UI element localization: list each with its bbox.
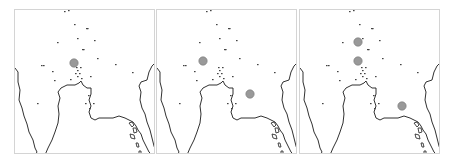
station-point: [216, 24, 218, 25]
station-point: [223, 78, 225, 79]
station-point: [236, 40, 238, 41]
station-point: [194, 71, 196, 72]
station-point: [179, 103, 181, 104]
station-point: [382, 58, 384, 59]
station-point: [372, 28, 374, 29]
station-point: [85, 103, 87, 104]
coastline: [300, 68, 322, 154]
station-point: [206, 11, 208, 12]
station-point: [375, 76, 377, 77]
station-point: [379, 40, 381, 41]
station-point: [230, 95, 232, 96]
highlight-marker: [398, 102, 406, 110]
station-point: [80, 67, 82, 68]
coastline: [281, 62, 297, 152]
island: [418, 128, 422, 133]
station-point: [218, 67, 220, 68]
station-point: [54, 80, 56, 81]
basemap: [157, 10, 297, 154]
island: [130, 134, 135, 139]
station-point: [212, 79, 214, 80]
station-point: [219, 70, 221, 71]
island: [278, 143, 281, 147]
island: [272, 134, 277, 139]
station-point: [97, 58, 99, 59]
station-point: [219, 76, 221, 77]
station-point: [353, 10, 355, 11]
station-point: [366, 78, 368, 79]
highlight-marker: [354, 38, 362, 46]
island: [275, 128, 279, 133]
station-point: [196, 80, 198, 81]
station-point: [360, 73, 362, 74]
basemap: [300, 10, 440, 154]
coastline: [15, 68, 37, 154]
station-point: [232, 76, 234, 77]
station-point: [229, 28, 231, 29]
station-point: [362, 70, 364, 71]
station-point: [88, 95, 90, 96]
island: [136, 143, 139, 147]
station-point: [235, 103, 237, 104]
station-point: [89, 108, 91, 109]
station-point: [43, 65, 45, 66]
coastline: [424, 62, 440, 152]
station-point: [75, 73, 77, 74]
station-point: [368, 49, 370, 50]
basemap: [15, 10, 155, 154]
station-point: [342, 42, 344, 43]
highlight-marker: [70, 59, 78, 67]
coastline: [139, 62, 155, 152]
station-point: [70, 79, 72, 80]
station-point: [87, 28, 89, 29]
station-point: [362, 38, 364, 39]
station-point: [378, 103, 380, 104]
station-point: [217, 73, 219, 74]
station-point: [76, 67, 78, 68]
station-point: [183, 65, 185, 66]
island: [281, 151, 283, 154]
station-point: [274, 72, 276, 73]
station-point: [77, 70, 79, 71]
station-point: [115, 64, 117, 65]
station-point: [326, 65, 328, 66]
station-point: [373, 95, 375, 96]
station-point: [93, 103, 95, 104]
highlight-marker: [199, 57, 207, 65]
station-point: [77, 38, 79, 39]
station-point: [37, 103, 39, 104]
station-point: [77, 76, 79, 77]
station-point: [79, 73, 81, 74]
station-point: [370, 103, 372, 104]
island: [133, 128, 137, 133]
station-point: [337, 71, 339, 72]
station-point: [362, 76, 364, 77]
station-point: [90, 76, 92, 77]
station-point: [361, 67, 363, 68]
island: [424, 151, 426, 154]
station-point: [132, 72, 134, 73]
map-panel-3: [299, 9, 440, 154]
station-point: [400, 64, 402, 65]
station-point: [185, 65, 187, 66]
station-point: [257, 64, 259, 65]
station-point: [365, 67, 367, 68]
island: [139, 151, 141, 154]
coastline: [157, 68, 179, 154]
map-panel-1: [14, 9, 155, 154]
station-point: [339, 80, 341, 81]
station-point: [374, 108, 376, 109]
station-point: [328, 65, 330, 66]
island: [415, 134, 420, 139]
station-point: [74, 24, 76, 25]
highlight-marker: [246, 90, 254, 98]
map-panel-2: [156, 9, 297, 154]
station-point: [221, 73, 223, 74]
station-point: [227, 103, 229, 104]
station-point: [81, 78, 83, 79]
station-point: [41, 65, 43, 66]
station-point: [222, 67, 224, 68]
highlight-marker: [354, 57, 362, 65]
station-point: [359, 24, 361, 25]
island: [421, 143, 424, 147]
